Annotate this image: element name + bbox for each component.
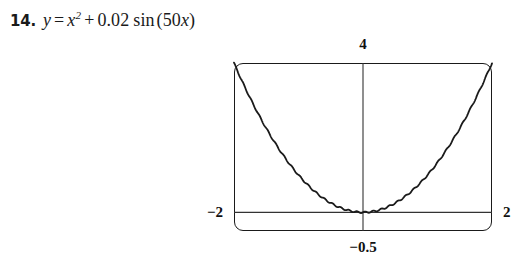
sine-function-name: sin bbox=[133, 10, 154, 30]
plot-canvas bbox=[234, 63, 492, 231]
equals-sign: = bbox=[54, 10, 64, 30]
equation-coefficient: 0.02 bbox=[97, 10, 129, 30]
problem-line: 14. y=x2+0.02sin(50x) bbox=[10, 9, 195, 31]
plus-sign: + bbox=[84, 10, 94, 30]
inner-coefficient: 50 bbox=[163, 10, 181, 30]
equation-lhs: y bbox=[43, 10, 51, 30]
graph-figure: 4 −2 2 −0.5 bbox=[234, 63, 492, 231]
equation-expression: y=x2+0.02sin(50x) bbox=[43, 9, 195, 31]
x-min-label: −2 bbox=[207, 204, 223, 221]
close-paren: ) bbox=[189, 10, 195, 30]
equation-exponent: 2 bbox=[75, 9, 81, 21]
y-max-label: 4 bbox=[359, 36, 367, 53]
y-min-label: −0.5 bbox=[349, 239, 376, 256]
inner-variable: x bbox=[181, 10, 189, 30]
problem-number: 14. bbox=[10, 12, 36, 30]
x-max-label: 2 bbox=[503, 204, 511, 221]
